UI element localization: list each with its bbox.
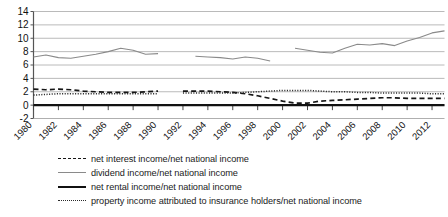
legend-key-dashed-icon [58,153,86,165]
chart-figure: -202468101214198019821984198619881990199… [0,0,448,217]
x-tick-label: 1984 [61,119,84,142]
legend-item-dividend-income: dividend income/net national income [58,166,448,180]
legend-label: net interest income/net national income [86,154,249,165]
x-tick-label: 1992 [161,119,184,142]
legend-label: property income attributed to insurance … [86,196,362,207]
x-tick-label: 2004 [310,119,333,142]
chart-legend: net interest income/net national income … [58,152,448,208]
series-line-0 [34,89,445,103]
legend-item-property-income: property income attributed to insurance … [58,194,448,208]
legend-label: dividend income/net national income [86,168,238,179]
x-tick-label: 2000 [260,119,283,142]
x-tick-label: 1998 [235,119,258,142]
legend-label: net rental income/net national income [86,182,242,193]
x-tick-label: 2002 [285,119,308,142]
x-tick-label: 1996 [210,119,233,142]
x-tick-label: 2008 [360,119,383,142]
x-tick-label: 1988 [111,119,134,142]
x-tick-label: 1982 [36,119,59,142]
x-tick-label: 1994 [186,119,209,142]
x-tick-label: 2010 [385,119,408,142]
series-line-1 [34,31,445,61]
legend-item-net-rental-income: net rental income/net national income [58,180,448,194]
y-tick-label: 0 [23,100,29,111]
x-tick-label: 1986 [86,119,109,142]
legend-key-thick-line-icon [58,181,86,193]
legend-key-dotted-icon [58,195,86,207]
y-tick-label: 12 [17,19,29,30]
y-tick-label: 14 [17,6,29,17]
legend-key-thin-line-icon [58,167,86,179]
y-tick-label: 2 [23,86,29,97]
x-tick-label: 2012 [410,119,433,142]
x-tick-label: 1980 [11,119,34,142]
y-tick-label: 4 [23,73,29,84]
x-tick-label: 2006 [335,119,358,142]
y-tick-label: 8 [23,46,29,57]
y-tick-label: 10 [17,33,29,44]
legend-item-net-interest-income: net interest income/net national income [58,152,448,166]
x-tick-label: 1990 [136,119,159,142]
y-tick-label: 6 [23,59,29,70]
